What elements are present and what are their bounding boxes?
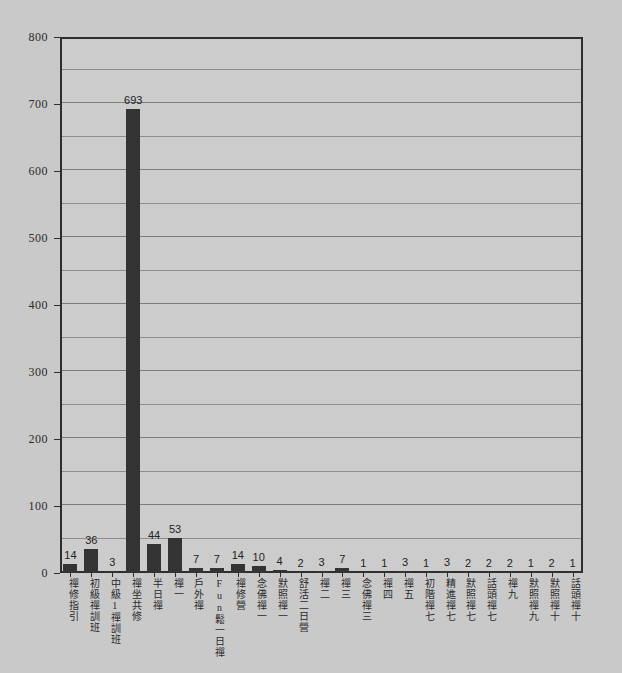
bar[interactable] bbox=[231, 564, 245, 573]
bar-value-label: 10 bbox=[253, 551, 265, 563]
x-tick-label: 初級禪訓班 bbox=[83, 578, 99, 633]
x-tick-label: 禪五 bbox=[397, 578, 413, 600]
bar-value-label: 1 bbox=[423, 557, 429, 569]
x-tick-mark bbox=[280, 573, 281, 577]
y-tick-label: 700 bbox=[29, 97, 49, 112]
bar-group[interactable]: 2 bbox=[461, 37, 475, 573]
bar-group[interactable]: 3 bbox=[398, 37, 412, 573]
bar-group[interactable]: 2 bbox=[482, 37, 496, 573]
x-tick-mark bbox=[175, 573, 176, 577]
x-tick-mark bbox=[70, 573, 71, 577]
x-tick-label: 舒活二日營 bbox=[293, 578, 309, 633]
x-tick-label: 默照禪九 bbox=[523, 578, 539, 622]
x-tick-mark bbox=[510, 573, 511, 577]
bar-group[interactable]: 44 bbox=[147, 37, 161, 573]
bar-value-label: 3 bbox=[444, 556, 450, 568]
bar-group[interactable]: 2 bbox=[545, 37, 559, 573]
bar-group[interactable]: 7 bbox=[189, 37, 203, 573]
x-tick-label: 禪坐共修 bbox=[125, 578, 141, 622]
bar-group[interactable]: 1 bbox=[524, 37, 538, 573]
bar-value-label: 3 bbox=[318, 556, 324, 568]
bar[interactable] bbox=[126, 109, 140, 573]
x-tick-mark bbox=[426, 573, 427, 577]
x-tick-label: 禪修指引 bbox=[62, 578, 78, 622]
x-tick-mark bbox=[133, 573, 134, 577]
bar-group[interactable]: 7 bbox=[210, 37, 224, 573]
bar-group[interactable]: 2 bbox=[503, 37, 517, 573]
bar-group[interactable]: 14 bbox=[63, 37, 77, 573]
bar-value-label: 1 bbox=[360, 557, 366, 569]
bar-value-label: 2 bbox=[486, 557, 492, 569]
x-tick-mark bbox=[489, 573, 490, 577]
bar-value-label: 1 bbox=[381, 557, 387, 569]
bar-value-label: 7 bbox=[339, 553, 345, 565]
bar-group[interactable]: 7 bbox=[335, 37, 349, 573]
x-tick-label: 話頭禪十 bbox=[565, 578, 581, 622]
bar-value-label: 2 bbox=[507, 557, 513, 569]
x-tick-mark bbox=[91, 573, 92, 577]
x-tick-label: 禪修營 bbox=[230, 578, 246, 611]
y-tick-label: 600 bbox=[29, 164, 49, 179]
x-tick-mark bbox=[238, 573, 239, 577]
x-tick-mark bbox=[259, 573, 260, 577]
y-axis: 0100200300400500600700800 bbox=[0, 0, 60, 673]
x-tick-label: 念佛禪一 bbox=[251, 578, 267, 622]
x-tick-label: 中級1禪訓班 bbox=[104, 578, 120, 645]
bar[interactable] bbox=[252, 566, 266, 573]
bar-value-label: 2 bbox=[298, 557, 304, 569]
bar-group[interactable]: 1 bbox=[356, 37, 370, 573]
x-tick-label: 默照禪十 bbox=[544, 578, 560, 622]
bar-value-label: 44 bbox=[148, 529, 160, 541]
bar-value-label: 1 bbox=[528, 557, 534, 569]
x-tick-mark bbox=[573, 573, 574, 577]
bar-value-label: 693 bbox=[124, 94, 142, 106]
x-tick-mark bbox=[322, 573, 323, 577]
bar-group[interactable]: 1 bbox=[419, 37, 433, 573]
y-tick-label: 800 bbox=[29, 30, 49, 45]
x-tick-mark bbox=[217, 573, 218, 577]
bar-group[interactable]: 14 bbox=[231, 37, 245, 573]
x-tick-label: Fun鬆一日禪 bbox=[209, 578, 225, 658]
bar-value-label: 14 bbox=[64, 549, 76, 561]
x-tick-mark bbox=[552, 573, 553, 577]
y-tick-label: 100 bbox=[29, 499, 49, 514]
bar-group[interactable]: 1 bbox=[377, 37, 391, 573]
x-tick-label: 禪九 bbox=[502, 578, 518, 600]
bar-group[interactable]: 10 bbox=[252, 37, 266, 573]
x-axis: 禪修指引初級禪訓班中級1禪訓班禪坐共修半日禪禪一戶外禪Fun鬆一日禪禪修營念佛禪… bbox=[60, 578, 583, 673]
bar[interactable] bbox=[147, 544, 161, 573]
bar-group[interactable]: 3 bbox=[315, 37, 329, 573]
x-tick-label: 半日禪 bbox=[146, 578, 162, 611]
x-tick-mark bbox=[468, 573, 469, 577]
y-tick-label: 400 bbox=[29, 298, 49, 313]
bar[interactable] bbox=[63, 564, 77, 573]
bar-group[interactable]: 693 bbox=[126, 37, 140, 573]
y-tick-label: 500 bbox=[29, 231, 49, 246]
bar-group[interactable]: 4 bbox=[273, 37, 287, 573]
x-tick-mark bbox=[301, 573, 302, 577]
y-tick-label: 200 bbox=[29, 432, 49, 447]
x-tick-mark bbox=[384, 573, 385, 577]
bar[interactable] bbox=[84, 549, 98, 573]
x-tick-label: 初階禪七 bbox=[418, 578, 434, 622]
y-tick-label: 300 bbox=[29, 365, 49, 380]
bar-value-label: 7 bbox=[193, 553, 199, 565]
bar-group[interactable]: 2 bbox=[294, 37, 308, 573]
bar-value-label: 7 bbox=[214, 553, 220, 565]
bar-group[interactable]: 1 bbox=[566, 37, 580, 573]
y-tick-label: 0 bbox=[42, 566, 49, 581]
bar-group[interactable]: 53 bbox=[168, 37, 182, 573]
x-tick-label: 禪二 bbox=[314, 578, 330, 600]
bar-group[interactable]: 3 bbox=[105, 37, 119, 573]
bar-value-label: 3 bbox=[402, 556, 408, 568]
y-tick-mark bbox=[54, 573, 60, 574]
bar-chart: 0100200300400500600700800 14363693445377… bbox=[0, 0, 622, 673]
bar-group[interactable]: 36 bbox=[84, 37, 98, 573]
bar[interactable] bbox=[168, 538, 182, 574]
x-tick-mark bbox=[154, 573, 155, 577]
x-tick-label: 戶外禪 bbox=[188, 578, 204, 611]
bar-group[interactable]: 3 bbox=[440, 37, 454, 573]
bar-value-label: 53 bbox=[169, 523, 181, 535]
bar-value-label: 1 bbox=[569, 557, 575, 569]
x-tick-label: 念佛禪三 bbox=[355, 578, 371, 622]
